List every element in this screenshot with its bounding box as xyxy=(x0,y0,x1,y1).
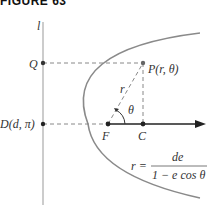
point-d xyxy=(41,122,45,126)
point-q xyxy=(41,61,45,65)
c-label: C xyxy=(138,129,147,143)
d-label: D(d, π) xyxy=(0,117,35,131)
radius-dashed-line xyxy=(108,63,143,124)
arrow-head-icon xyxy=(195,120,206,128)
equation-lhs: r = xyxy=(131,159,147,173)
f-label: F xyxy=(101,129,110,143)
theta-label: θ xyxy=(128,103,134,117)
point-p xyxy=(141,61,145,65)
equation-denominator: 1 − e cos θ xyxy=(152,168,205,182)
p-label: P(r, θ) xyxy=(147,62,179,76)
r-label: r xyxy=(120,82,125,96)
equation-numerator: de xyxy=(172,150,184,164)
conic-diagram: l Q P(r, θ) r θ D(d, π) F C r = de 1 − e… xyxy=(0,0,213,212)
directrix-label: l xyxy=(37,19,41,33)
point-c xyxy=(141,122,146,127)
point-f xyxy=(106,122,111,127)
q-label: Q xyxy=(29,57,38,71)
theta-arc xyxy=(116,110,125,124)
